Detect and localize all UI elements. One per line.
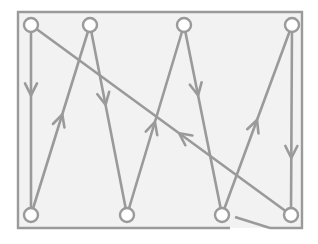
zigzag-path-diagram [0,0,318,244]
node-top-1 [24,18,38,32]
node-bottom-4 [284,208,298,222]
node-bottom-1 [24,208,38,222]
node-bottom-3 [215,208,229,222]
node-top-4 [285,18,299,32]
edge-top-4-to-bottom-4 [291,25,292,215]
node-bottom-2 [120,208,134,222]
node-top-3 [177,18,191,32]
node-top-2 [83,18,97,32]
